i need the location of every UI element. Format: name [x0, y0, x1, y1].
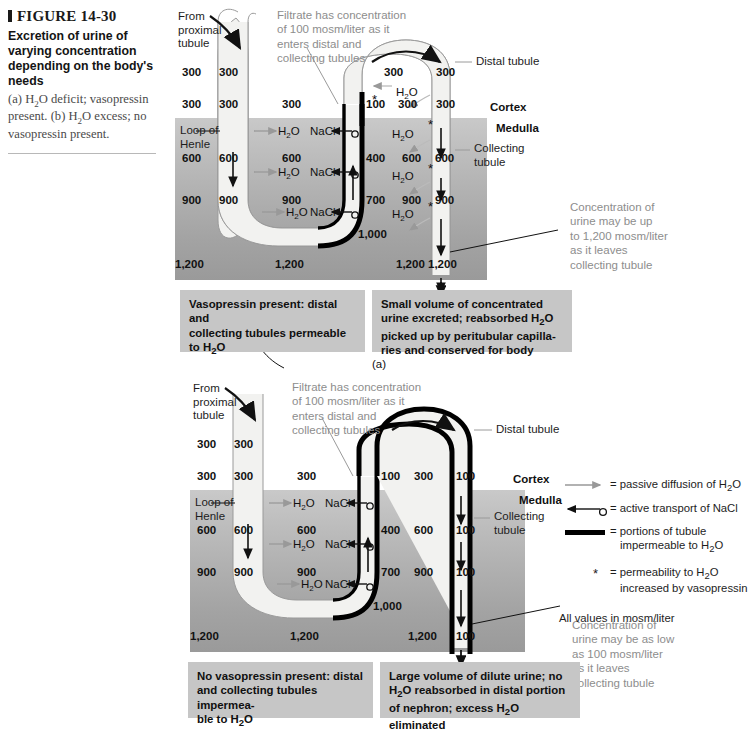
descending-limb-value-b: 300: [234, 470, 253, 482]
impermeable-distal-a: [360, 92, 365, 126]
ascending-limb-value-b: 100: [381, 470, 400, 482]
cortex-label-a: Cortex: [490, 101, 526, 115]
interstitial-value-a: 300: [182, 98, 201, 110]
right-interstitial-value-b: 1,200: [408, 630, 437, 642]
descending-limb-value-a: 300: [219, 98, 238, 110]
loop-lumen-value-a: 300: [282, 98, 301, 110]
diagram-panel-b: Fromproximaltubule Filtrate has concentr…: [0, 378, 753, 737]
urine-concentration-note-a: Concentration ofurine may be upto 1,200 …: [570, 200, 668, 272]
h2o-label-b: H2O: [293, 538, 315, 553]
loop-lumen-value-b: 600: [297, 524, 316, 536]
right-interstitial-value-b: 900: [414, 566, 433, 578]
h2o-label-a: H2O: [278, 125, 300, 140]
caption-box-left-a: Vasopressin present: distal andcollectin…: [180, 290, 365, 352]
interstitial-value-b: 300: [197, 470, 216, 482]
h2o-label-collecting-a: H2O: [396, 86, 418, 101]
medulla-label-b: Medulla: [519, 494, 562, 508]
legend-footer-units: All values in mosm/liter: [559, 612, 675, 624]
medulla-label-a: Medulla: [496, 122, 539, 136]
ascending-limb-value-b: 400: [381, 524, 400, 536]
distal-tubule-value-a: 300: [384, 66, 403, 78]
collecting-tubule-label-b: Collectingtubule: [494, 510, 545, 537]
distal-tubule-value-a: 300: [436, 66, 455, 78]
filtrate-note-a: Filtrate has concentrationof 100 mosm/li…: [277, 8, 406, 66]
nacl-label-b: NaCl: [325, 497, 351, 509]
legend-item-active-transport: = active transport of NaCl: [610, 502, 738, 516]
ascending-limb-value-a: 1,000: [358, 228, 387, 240]
caption-box-right-a: Small volume of concentratedurine excret…: [372, 290, 572, 352]
interstitial-value-a: 1,200: [175, 258, 204, 270]
h2o-label-b: H2O: [293, 497, 315, 512]
ascending-limb-value-a: 700: [366, 194, 385, 206]
descending-limb-value-b: 900: [234, 566, 253, 578]
h2o-label-collecting-a: H2O: [392, 208, 414, 223]
nacl-label-b: NaCl: [325, 578, 351, 590]
descending-limb-value-b: 600: [234, 524, 253, 536]
interstitial-value-a: 600: [182, 152, 201, 164]
legend-item-vasopressin: = permeability to H2Oincreased by vasopr…: [610, 566, 747, 596]
urine-concentration-note-b: Concentration ofurine may be as lowas 10…: [572, 618, 674, 690]
right-interstitial-value-a: 600: [402, 152, 421, 164]
collecting-tubule-label-a: Collectingtubule: [474, 142, 525, 169]
right-interstitial-value-a: 900: [402, 194, 421, 206]
figure-legend: = passive diffusion of H2O = active tran…: [560, 478, 750, 618]
nacl-label-b: NaCl: [325, 538, 351, 550]
loop-lumen-value-a: 1,200: [275, 258, 304, 270]
descending-limb-value-a: 300: [219, 66, 238, 78]
interstitial-value-b: 1,200: [190, 630, 219, 642]
from-proximal-tubule-label-a: Fromproximaltubule: [178, 10, 221, 51]
collecting-tubule-value-b: 100: [456, 524, 475, 536]
distal-tubule-value-b: 100: [456, 470, 475, 482]
loop-lumen-value-b: 900: [297, 566, 316, 578]
loop-lumen-value-a: 600: [282, 152, 301, 164]
descending-limb-value-b: 300: [234, 438, 253, 450]
nacl-label-a: NaCl: [310, 166, 336, 178]
descending-limb-value-a: 900: [219, 194, 238, 206]
legend-star-icon: *: [593, 566, 598, 582]
collecting-tubule-value-a: 1,200: [428, 258, 457, 270]
loop-of-henle-label-b: Loop ofHenle: [195, 496, 233, 523]
ascending-limb-value-b: 1,000: [373, 600, 402, 612]
h2o-label-b: H2O: [301, 578, 323, 593]
interstitial-value-a: 900: [182, 194, 201, 206]
loop-of-henle-label-a: Loop ofHenle: [180, 124, 218, 151]
collecting-tubule-value-b: 100: [456, 630, 475, 642]
filtrate-note-b: Filtrate has concentrationof 100 mosm/li…: [292, 380, 421, 438]
collecting-tubule-value-b: 100: [456, 566, 475, 578]
distal-tubule-value-a: 300: [436, 98, 455, 110]
vasopressin-star-icon-a: *: [428, 118, 433, 131]
collecting-tubule-value-a: 900: [435, 194, 454, 206]
h2o-label-collecting-a: H2O: [392, 170, 414, 185]
vasopressin-star-icon-a: *: [428, 200, 433, 213]
loop-lumen-value-b: 300: [297, 470, 316, 482]
loop-lumen-value-b: 1,200: [290, 630, 319, 642]
legend-item-passive-diffusion: = passive diffusion of H2O: [610, 478, 741, 494]
h2o-label-a: H2O: [286, 206, 308, 221]
interstitial-value-a: 300: [182, 66, 201, 78]
distal-tubule-label-a: Distal tubule: [476, 55, 539, 69]
panel-label-a: (a): [372, 358, 386, 370]
nacl-label-a: NaCl: [310, 206, 336, 218]
vasopressin-star-icon-a: *: [372, 93, 377, 106]
from-proximal-tubule-label-b: Fromproximaltubule: [193, 382, 236, 423]
nacl-label-a: NaCl: [310, 125, 336, 137]
interstitial-value-b: 300: [197, 438, 216, 450]
right-interstitial-value-a: 1,200: [396, 258, 425, 270]
vasopressin-star-icon-a: *: [428, 162, 433, 175]
cortex-label-b: Cortex: [513, 473, 549, 487]
collecting-tubule-value-a: 600: [435, 152, 454, 164]
caption-box-right-b: Large volume of dilute urine; noH2O reab…: [380, 662, 580, 718]
distal-tubule-label-b: Distal tubule: [496, 423, 559, 437]
loop-lumen-value-a: 900: [282, 194, 301, 206]
ascending-limb-value-b: 700: [381, 566, 400, 578]
diagram-panel-a: Fromproximaltubule Filtrate has concentr…: [0, 0, 753, 375]
descending-limb-value-a: 600: [219, 152, 238, 164]
ascending-limb-value-a: 400: [366, 152, 385, 164]
interstitial-value-b: 900: [197, 566, 216, 578]
legend-item-impermeable: = portions of tubuleimpermeable to H2O: [610, 525, 723, 555]
interstitial-value-b: 600: [197, 524, 216, 536]
h2o-label-collecting-a: H2O: [392, 128, 414, 143]
caption-box-left-b: No vasopressin present: distaland collec…: [188, 662, 373, 718]
distal-tubule-value-b: 300: [414, 470, 433, 482]
h2o-label-a: H2O: [278, 166, 300, 181]
